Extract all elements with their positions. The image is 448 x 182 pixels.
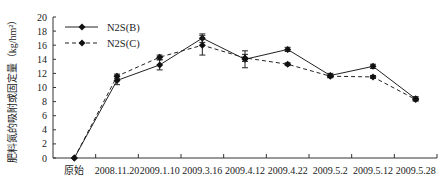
y-tick-label: 0 bbox=[42, 153, 47, 164]
y-tick-label: 16 bbox=[37, 40, 47, 51]
x-tick-label: 2008.11.20 bbox=[95, 165, 140, 176]
legend-label: N2S(C) bbox=[107, 38, 140, 50]
x-tick-label: 2009.4.22 bbox=[268, 165, 308, 176]
x-tick-label: 2009.1.10 bbox=[140, 165, 180, 176]
legend: N2S(B)N2S(C) bbox=[65, 22, 140, 50]
series-2 bbox=[71, 35, 419, 161]
diamond-marker bbox=[156, 61, 163, 68]
diamond-marker bbox=[370, 73, 377, 80]
x-tick-label: 2009.5.12 bbox=[353, 165, 393, 176]
y-axis-label: 肥料氮的吸附或固定量（kg/hm²） bbox=[4, 14, 18, 164]
diamond-marker bbox=[71, 155, 78, 162]
x-tick-label: 2009.3.16 bbox=[182, 165, 222, 176]
y-tick-label: 10 bbox=[37, 82, 47, 93]
x-tick-label: 2009.5.2 bbox=[313, 165, 348, 176]
y-tick-label: 14 bbox=[37, 54, 47, 65]
y-tick-label: 4 bbox=[42, 124, 47, 135]
series-1 bbox=[71, 34, 419, 162]
y-tick-label: 6 bbox=[42, 110, 47, 121]
legend-label: N2S(B) bbox=[107, 22, 140, 34]
x-tick-label: 2009.5.28 bbox=[396, 165, 436, 176]
diamond-marker bbox=[284, 61, 291, 68]
x-tick-label: 原始 bbox=[64, 164, 84, 176]
line-chart: 02468101214161820原始2008.11.202009.1.1020… bbox=[0, 0, 448, 182]
y-tick-label: 8 bbox=[42, 96, 47, 107]
y-tick-label: 18 bbox=[37, 26, 47, 37]
series-group bbox=[71, 34, 419, 162]
axes: 02468101214161820原始2008.11.202009.1.1020… bbox=[37, 12, 437, 177]
y-tick-label: 12 bbox=[37, 68, 47, 79]
y-tick-label: 20 bbox=[37, 12, 47, 23]
y-tick-label: 2 bbox=[42, 138, 47, 149]
diamond-marker bbox=[79, 40, 86, 47]
diamond-marker bbox=[79, 24, 86, 31]
x-tick-label: 2009.4.12 bbox=[225, 165, 265, 176]
